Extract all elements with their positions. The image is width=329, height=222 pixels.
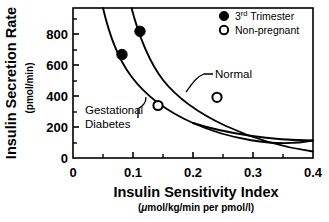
data-point-open-2 (212, 93, 221, 102)
x-axis-units: (μmol/kg/min per pmol/l) (138, 202, 254, 213)
legend-label-non-pregnant: Non-pregnant (235, 24, 299, 36)
y-axis-units: (pmol/min) (24, 62, 35, 113)
x-tick-label-0: 0 (69, 165, 76, 180)
y-tick-label-200: 200 (46, 120, 68, 135)
y-tick-labels: 800 600 400 200 0 (46, 27, 68, 166)
x-tick-labels: 0 0.1 0.2 0.3 0.4 (69, 165, 322, 180)
legend-label-3rd-trimester-sup: rd (241, 9, 248, 18)
x-tick-label-0.3: 0.3 (244, 165, 262, 180)
x-tick-label-0.4: 0.4 (304, 165, 323, 180)
x-axis-units-mu: μ (140, 202, 147, 213)
annotation-normal: Normal (215, 68, 252, 80)
x-axis-title: Insulin Sensitivity Index (113, 184, 278, 200)
data-point-filled-1 (117, 49, 127, 59)
data-point-open-1 (153, 101, 162, 110)
chart-svg: Normal Gestational Diabetes 3rd Trimeste… (0, 0, 329, 222)
y-tick-label-600: 600 (46, 58, 68, 73)
legend-label-3rd-trimester-rest: Trimester (248, 10, 295, 22)
y-tick-label-800: 800 (46, 27, 68, 42)
annotation-gestational-line2: Diabetes (85, 118, 131, 130)
legend-marker-filled-circle (219, 11, 228, 20)
y-axis-title: Insulin Secretion Rate (3, 7, 19, 159)
y-tick-label-0: 0 (61, 151, 68, 166)
annotation-gestational-line1: Gestational (85, 104, 143, 116)
x-tick-label-0.2: 0.2 (184, 165, 202, 180)
chart-figure: Normal Gestational Diabetes 3rd Trimeste… (0, 0, 329, 222)
legend-marker-open-circle (220, 26, 228, 34)
data-point-filled-2 (135, 26, 145, 36)
x-tick-label-0.1: 0.1 (124, 165, 142, 180)
x-axis-units-post: mol/kg/min per pmol/l) (147, 202, 254, 213)
y-tick-label-400: 400 (46, 89, 68, 104)
